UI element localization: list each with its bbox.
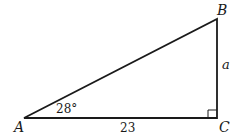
triangle-shape [24, 19, 217, 118]
triangle-figure [0, 0, 242, 140]
side-label-bc: a [222, 58, 230, 71]
right-angle-marker [208, 110, 217, 118]
vertex-label-c: C [219, 120, 230, 134]
vertex-label-a: A [14, 120, 24, 134]
vertex-label-b: B [217, 3, 227, 17]
triangle-diagram: B A C a 28° 23 [0, 0, 242, 140]
angle-label-a: 28° [56, 103, 77, 115]
side-label-ac: 23 [120, 122, 135, 134]
